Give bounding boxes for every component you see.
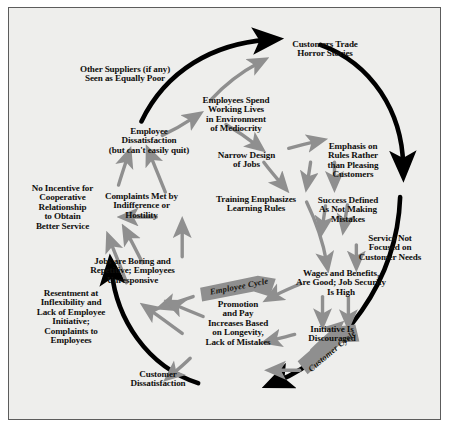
outer-arrow-bottom-to-left — [112, 271, 199, 383]
diagram-frame: Customers Trade Horror Stories Other Sup… — [8, 7, 441, 420]
node-jobs-are-boring-and-repetitive: Jobs are Boring and Repetitive; Employee… — [75, 257, 190, 285]
node-employee-dissatisfaction: Employee Dissatisfaction (but can't easi… — [95, 127, 203, 155]
node-success-defined-as-not-making-mistakes: Success Defined As Not Making Mistakes — [302, 196, 394, 224]
node-customers-trade-horror-stories: Customers Trade Horror Stories — [265, 40, 385, 59]
node-wages-and-benefits-are-good: Wages and Benefits, Are Good; Job Securi… — [281, 269, 401, 297]
node-emphasis-on-rules: Emphasis on Rules Rather than Pleasing C… — [310, 142, 396, 180]
arrow-promotion-to-resentment — [149, 310, 182, 334]
node-complaints-met-by-indifference: Complaints Met by Indifference or Hostil… — [90, 192, 193, 220]
node-other-suppliers-seen-as-equally-poor: Other Suppliers (if any) Seen as Equally… — [58, 65, 192, 84]
node-customer-dissatisfaction: Customer Dissatisfaction — [104, 370, 212, 389]
arrow-complaints-to-emp-dissat — [150, 155, 165, 192]
node-promotion-and-pay-increases: Promotion and Pay Increases Based on Lon… — [187, 300, 289, 347]
arrow-no-incentive-to-suppliers — [119, 157, 128, 185]
node-narrow-design-of-jobs: Narrow Design of Jobs — [199, 151, 294, 170]
node-initiative-is-discouraged: Initiative Is Discouraged — [292, 325, 372, 344]
node-resentment-at-inflexibility: Resentment at Inflexibility and Lack of … — [25, 289, 117, 346]
node-service-not-focused-on-customer-needs: Service Not Focused on Customer Needs — [341, 234, 439, 262]
node-training-emphasizes-learning-rules: Training Emphasizes Learning Rules — [201, 195, 311, 214]
